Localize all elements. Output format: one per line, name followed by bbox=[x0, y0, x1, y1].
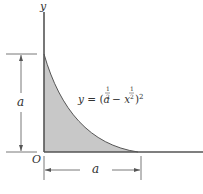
width-dimension-label: a bbox=[92, 162, 99, 176]
arrow-right-icon bbox=[134, 168, 140, 172]
origin-label: O bbox=[32, 153, 41, 166]
arrow-up-icon bbox=[19, 55, 23, 61]
svg-text:2: 2 bbox=[106, 93, 110, 100]
arrow-down-icon bbox=[19, 145, 23, 151]
curve-equation: y = (a 1 2 − x 1 2 ) 2 bbox=[77, 85, 143, 105]
svg-text:1: 1 bbox=[106, 85, 110, 92]
svg-text:2: 2 bbox=[139, 93, 143, 101]
y-axis-label: y bbox=[39, 0, 47, 13]
svg-text:− x: − x bbox=[112, 93, 130, 105]
height-dimension-label: a bbox=[17, 95, 24, 109]
area-diagram: y O a a y = (a 1 2 − x 1 2 ) 2 bbox=[0, 0, 203, 194]
svg-text:y = (a: y = (a bbox=[77, 93, 110, 105]
svg-text:2: 2 bbox=[130, 93, 134, 100]
arrow-left-icon bbox=[45, 168, 51, 172]
svg-text:1: 1 bbox=[130, 85, 134, 92]
